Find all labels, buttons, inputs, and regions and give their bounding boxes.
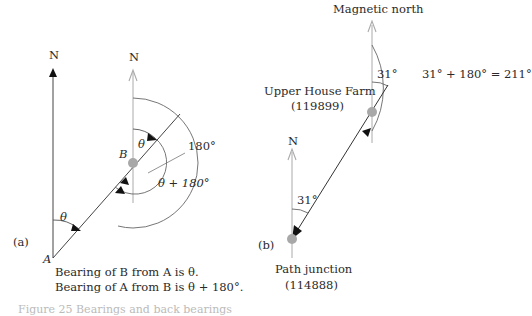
- panel-b-label: (b): [258, 240, 274, 252]
- angle-31-farm-label: 31°: [377, 69, 397, 81]
- leader-180: [148, 153, 185, 173]
- farm-name-label: Upper House Farm: [264, 86, 376, 98]
- magnetic-north-label: Magnetic north: [333, 4, 423, 16]
- arc-31-junction: [292, 209, 308, 213]
- arrowhead-theta-180-icon: [115, 186, 125, 194]
- point-b-label: B: [119, 149, 127, 161]
- north-label-b: N: [129, 52, 139, 64]
- panel-a-label: (a): [13, 237, 29, 249]
- junction-dot: [287, 234, 297, 244]
- panel-b: [287, 21, 388, 258]
- theta-label-a: θ: [60, 212, 67, 224]
- farm-ref-label: (119899): [291, 101, 344, 113]
- point-b-dot: [128, 158, 138, 168]
- junction-north-label: N: [288, 136, 298, 148]
- caption-a-line2: Bearing of A from B is θ + 180°.: [55, 282, 243, 294]
- back-bearing-label: 31° + 180° = 211°: [422, 69, 532, 81]
- arrowhead-211-icon: [362, 128, 371, 137]
- panel-a: [49, 68, 198, 258]
- theta-label-b: θ: [138, 139, 145, 151]
- angle-theta-plus-180-label: θ + 180°: [158, 178, 210, 190]
- caption-a-line1: Bearing of B from A is θ.: [55, 267, 199, 279]
- farm-dot: [367, 107, 377, 117]
- junction-ref-label: (114888): [285, 280, 338, 292]
- junction-name-label: Path junction: [275, 264, 352, 276]
- arrowhead-theta-b-icon: [147, 133, 157, 141]
- north-label-a: N: [49, 50, 59, 62]
- figure-caption: Figure 25 Bearings and back bearings: [18, 303, 232, 316]
- north-arrow-a-icon: [49, 68, 57, 77]
- angle-180-label: 180°: [188, 141, 216, 153]
- angle-31-junction-label: 31°: [297, 195, 317, 207]
- point-a-label: A: [43, 254, 51, 266]
